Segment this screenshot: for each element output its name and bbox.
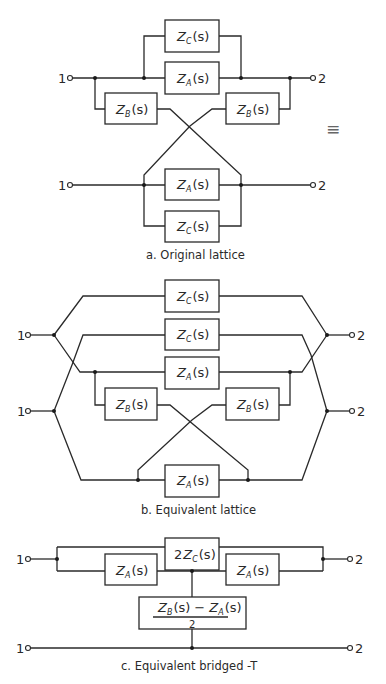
- svg-text:ZA(s): ZA(s): [115, 563, 148, 580]
- terminal-2-upper: 2: [350, 328, 366, 343]
- caption-b: b. Equivalent lattice: [141, 503, 256, 517]
- wire: [144, 36, 165, 78]
- junction-dot: [136, 478, 140, 482]
- terminal-1-upper: 1: [17, 328, 31, 343]
- caption-c: c. Equivalent bridged -T: [121, 659, 258, 673]
- junction-dot: [93, 370, 97, 374]
- svg-text:1: 1: [17, 404, 25, 419]
- impedance-box-za-lower: ZA(s): [165, 169, 219, 200]
- fraction-denominator: 2: [189, 619, 195, 630]
- wire: [54, 296, 165, 335]
- junction-dot: [190, 569, 194, 573]
- equivalence-symbol: ≡: [326, 119, 340, 139]
- junction-dot: [239, 76, 243, 80]
- junction-dot: [239, 183, 243, 187]
- junction-dot: [93, 76, 97, 80]
- junction-dot: [325, 409, 329, 413]
- impedance-box-zb-right: ZB(s): [226, 93, 279, 124]
- svg-text:2: 2: [318, 71, 326, 86]
- wire: [54, 335, 165, 372]
- wire: [144, 185, 165, 226]
- junction-dot: [52, 409, 56, 413]
- svg-text:1: 1: [16, 641, 24, 656]
- impedance-box-shunt-fraction: ZB(s)−ZA(s) 2: [139, 597, 246, 630]
- impedance-box-zb-left: ZB(s): [105, 93, 157, 124]
- svg-text:1: 1: [58, 178, 66, 193]
- terminal-1-lower: 1: [16, 641, 31, 656]
- svg-text:2: 2: [357, 404, 365, 419]
- junction-dot: [55, 557, 59, 561]
- section-c-bridged-t: 2ZC(s) ZA(s) ZA(s) ZB(s)−ZA(s) 2 1 2: [16, 538, 363, 673]
- wire: [95, 78, 105, 109]
- wire: [54, 411, 165, 480]
- svg-text:ZB(s): ZB(s): [115, 102, 148, 119]
- svg-text:ZB(s): ZB(s): [236, 397, 269, 414]
- terminal-1-upper: 1: [16, 552, 31, 567]
- svg-text:ZA(s): ZA(s): [176, 177, 209, 194]
- svg-text:ZC(s): ZC(s): [176, 327, 209, 344]
- terminal-2-upper: 2: [311, 71, 327, 86]
- terminal-2-lower: 2: [348, 641, 364, 656]
- section-b-equivalent-lattice: ZC(s) ZC(s) ZA(s) ZB(s) ZB(s) ZA(s): [17, 280, 365, 517]
- impedance-box-zc-lower: ZC(s): [165, 211, 219, 242]
- junction-dot: [321, 557, 325, 561]
- junction-dot: [142, 183, 146, 187]
- impedance-box-za-bottom: ZA(s): [165, 465, 219, 497]
- svg-text:ZC(s): ZC(s): [176, 29, 209, 46]
- impedance-box-zc-second: ZC(s): [165, 319, 219, 350]
- terminal-2-lower: 2: [311, 178, 327, 193]
- caption-a: a. Original lattice: [146, 248, 245, 262]
- wire: [219, 185, 241, 226]
- svg-text:ZA(s): ZA(s): [176, 71, 209, 88]
- impedance-box-2zc: 2ZC(s): [165, 538, 219, 570]
- impedance-box-za: ZA(s): [165, 62, 219, 94]
- terminal-1-lower: 1: [17, 404, 31, 419]
- wire: [219, 411, 327, 480]
- junction-dot: [246, 478, 250, 482]
- svg-text:1: 1: [16, 552, 24, 567]
- svg-text:ZC(s): ZC(s): [176, 219, 209, 236]
- svg-text:1: 1: [58, 71, 66, 86]
- impedance-box-za-right: ZA(s): [226, 554, 279, 585]
- svg-text:2: 2: [357, 328, 365, 343]
- impedance-box-za-left: ZA(s): [105, 554, 157, 585]
- svg-text:2: 2: [318, 178, 326, 193]
- terminal-1-lower: 1: [58, 178, 73, 193]
- wire: [279, 372, 290, 405]
- impedance-box-za: ZA(s): [165, 357, 219, 389]
- impedance-box-zb-left: ZB(s): [105, 388, 157, 420]
- wire: [95, 372, 105, 405]
- junction-dot: [142, 76, 146, 80]
- junction-dot: [288, 76, 292, 80]
- svg-text:1: 1: [17, 328, 25, 343]
- junction-dot: [288, 370, 292, 374]
- impedance-box-zc: ZC(s): [165, 20, 219, 52]
- svg-text:ZB(s): ZB(s): [236, 102, 269, 119]
- terminal-1-upper: 1: [58, 71, 73, 86]
- svg-text:2: 2: [355, 641, 363, 656]
- section-a-original-lattice: ZC(s) ZA(s) ZB(s) ZB(s) ZA(s) ZC(s): [58, 20, 326, 262]
- junction-dot: [190, 646, 194, 650]
- lattice-equivalence-figure: ZC(s) ZA(s) ZB(s) ZB(s) ZA(s) ZC(s): [0, 0, 386, 684]
- svg-text:ZA(s): ZA(s): [176, 365, 209, 382]
- terminal-2-lower: 2: [350, 404, 366, 419]
- svg-text:2: 2: [355, 552, 363, 567]
- impedance-box-zb-right: ZB(s): [226, 388, 279, 420]
- svg-text:ZC(s): ZC(s): [176, 289, 209, 306]
- svg-text:ZA(s): ZA(s): [236, 563, 269, 580]
- junction-dot: [325, 333, 329, 337]
- wire: [219, 36, 241, 78]
- svg-text:ZA(s): ZA(s): [176, 473, 209, 490]
- wire: [219, 296, 327, 335]
- svg-text:ZB(s): ZB(s): [115, 397, 148, 414]
- junction-dot: [52, 333, 56, 337]
- terminal-2-upper: 2: [348, 552, 364, 567]
- impedance-box-zc-top: ZC(s): [165, 280, 219, 312]
- wire: [279, 78, 290, 109]
